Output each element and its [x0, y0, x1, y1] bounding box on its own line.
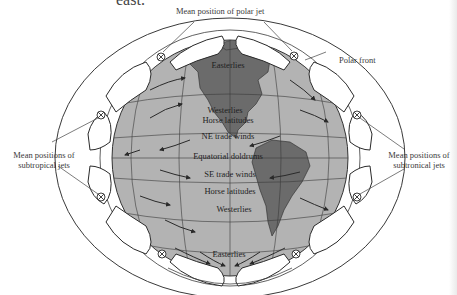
globe-label-se-trade-winds: SE trade winds	[204, 169, 255, 179]
subtropical-jet-marker-right-south	[353, 193, 361, 201]
polar-jet-marker-right-north	[290, 52, 298, 60]
label-subtropical-jets-left: Mean positions of subtropical jets	[4, 150, 84, 170]
subtropical-jet-marker-left-south	[97, 193, 105, 201]
polar-jet-marker-left-north	[157, 53, 165, 61]
label-subtronical-jets-right: Mean positions of subtronical jets	[380, 150, 457, 170]
polar-jet-marker-left-south	[158, 250, 166, 258]
polar-jet-marker-right-south	[292, 250, 300, 258]
label-polar-front: Polar front	[339, 55, 376, 65]
globe-label-easterlies-north: Easterlies	[211, 60, 244, 70]
globe-label-westerlies-south: Westerlies	[216, 204, 251, 214]
globe-label-westerlies-north: Westerlies	[207, 105, 242, 115]
page-edge-shadow	[449, 0, 457, 295]
label-line-1: Mean positions of	[380, 150, 457, 160]
globe-label-horse-latitudes-south: Horse latitudes	[204, 186, 255, 196]
subtropical-jet-marker-right-north	[353, 111, 361, 119]
globe-label-equatorial-doldrums: Equatorial doldrums	[193, 151, 263, 161]
globe-label-ne-trade-winds: NE trade winds	[202, 131, 255, 141]
label-line-2: subtronical jets	[380, 160, 457, 170]
globe-label-easterlies-south: Easterlies	[212, 249, 245, 259]
label-line-1: Mean positions of	[4, 150, 84, 160]
label-line-2: subtropical jets	[4, 160, 84, 170]
label-polar-jet: Mean position of polar jet	[176, 6, 264, 16]
globe-label-horse-latitudes-north: Horse latitudes	[202, 115, 253, 125]
subtropical-jet-marker-left-north	[97, 111, 105, 119]
